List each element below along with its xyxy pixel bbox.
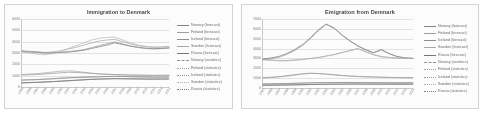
x-axis-tick-label: 1995 <box>18 87 25 95</box>
legend-line-swatch <box>177 25 189 26</box>
legend-item[interactable]: Sweden (forecast) <box>177 44 222 50</box>
legend-item[interactable]: Russia (forecast) <box>424 52 469 58</box>
x-axis-tick-label: 1997 <box>275 88 282 96</box>
x-axis-tick-label: 1995 <box>259 88 266 96</box>
legend-item[interactable]: Iceland (statistics) <box>177 72 222 78</box>
legend-item[interactable]: Finland (statistics) <box>424 67 469 73</box>
legend-item[interactable]: Iceland (statistics) <box>424 74 469 80</box>
legend-label: Iceland (forecast) <box>438 38 467 43</box>
legend-item[interactable]: Sweden (forecast) <box>424 45 469 51</box>
legend-line-swatch <box>424 84 436 85</box>
x-axis-tick-label: 2001 <box>64 87 71 95</box>
y-axis-tick-label: 4000 <box>253 47 261 51</box>
legend-line-swatch <box>424 33 436 34</box>
x-axis-tick-label: 2005 <box>338 88 345 96</box>
x-axis-tick-label: 2006 <box>103 87 110 95</box>
legend-label: Russia (forecast) <box>191 51 219 56</box>
legend-label: Norway (forecast) <box>191 23 220 28</box>
legend-line-swatch <box>177 53 189 54</box>
x-axis-tick-label: 2000 <box>298 88 305 96</box>
y-axis-tick-label: 1000 <box>253 76 261 80</box>
chart-panel-emigration: Emigration from Denmark 7000600050004000… <box>241 4 479 109</box>
y-axis-tick-label: 4000 <box>12 40 20 44</box>
legend-item[interactable]: Russia (forecast) <box>177 51 222 57</box>
legend-line-swatch <box>177 75 189 76</box>
y-axis-tick-label: 1000 <box>12 74 20 78</box>
legend-label: Russia (forecast) <box>438 53 466 58</box>
x-axis-tick-label: 2001 <box>306 88 313 96</box>
legend-label: Russia (statistics) <box>191 87 220 92</box>
x-axis-tick-label: 2003 <box>80 87 87 95</box>
x-axis-tick-label: 2004 <box>330 88 337 96</box>
x-axis-tick-label: 2009 <box>126 87 133 95</box>
legend-label: Norway (statistics) <box>191 58 221 63</box>
x-axis-tick-label: 2011 <box>142 87 149 95</box>
legend-label: Finland (forecast) <box>438 31 467 36</box>
legend-line-swatch <box>424 77 436 78</box>
legend-line-swatch <box>424 47 436 48</box>
legend-line-swatch <box>424 26 436 27</box>
x-axis-tick-label: 1999 <box>291 88 298 96</box>
legend-item[interactable]: Finland (forecast) <box>177 29 222 35</box>
x-axis-tick-label: 2008 <box>119 87 126 95</box>
plot-frame: 6000500040003000200010000199519961997199… <box>21 19 169 88</box>
legend-item[interactable]: Norway (forecast) <box>177 22 222 28</box>
legend-item[interactable]: Finland (forecast) <box>424 30 469 36</box>
x-axis-tick-label: 2008 <box>362 88 369 96</box>
legend-item[interactable]: Iceland (forecast) <box>177 36 222 42</box>
x-axis-tick-label: 2014 <box>409 88 416 96</box>
x-axis-tick-label: 1997 <box>33 87 40 95</box>
x-axis-tick-label: 2013 <box>401 88 408 96</box>
legend-item[interactable]: Iceland (forecast) <box>424 38 469 44</box>
x-axis-tick-label: 2012 <box>393 88 400 96</box>
series-line <box>22 43 169 53</box>
charts-page: Immigration to Denmark 60005000400030002… <box>0 0 489 115</box>
x-axis-tick-label: 2013 <box>157 87 164 95</box>
series-layer <box>263 19 413 88</box>
legend-item[interactable]: Norway (statistics) <box>177 58 222 64</box>
legend-label: Iceland (forecast) <box>191 37 220 42</box>
legend-label: Norway (statistics) <box>438 60 468 65</box>
legend-label: Russia (statistics) <box>438 89 467 94</box>
legend-line-swatch <box>177 68 189 69</box>
x-axis-tick-label: 2010 <box>134 87 141 95</box>
x-axis-tick-label: 2007 <box>111 87 118 95</box>
x-axis-tick-label: 1999 <box>49 87 56 95</box>
y-axis-tick-label: 6000 <box>253 27 261 31</box>
y-axis-tick-label: 6000 <box>12 17 20 21</box>
legend-item[interactable]: Finland (statistics) <box>177 65 222 71</box>
legend-label: Sweden (statistics) <box>438 82 469 87</box>
legend-label: Finland (forecast) <box>191 30 220 35</box>
legend-line-swatch <box>424 62 436 63</box>
x-axis-tick-label: 2012 <box>150 87 157 95</box>
legend-line-swatch <box>424 40 436 41</box>
legend-line-swatch <box>177 89 189 90</box>
x-axis-tick-label: 2010 <box>377 88 384 96</box>
legend-item[interactable]: Sweden (statistics) <box>177 80 222 86</box>
legend-item[interactable]: Norway (forecast) <box>424 23 469 29</box>
legend-item[interactable]: Russia (statistics) <box>177 87 222 93</box>
legend-item[interactable]: Russia (statistics) <box>424 89 469 95</box>
legend-label: Sweden (statistics) <box>191 80 222 85</box>
legend-line-swatch <box>424 69 436 70</box>
legend-item[interactable]: Norway (statistics) <box>424 59 469 65</box>
y-axis-tick-label: 7000 <box>253 17 261 21</box>
y-axis-tick-label: 3000 <box>12 51 20 55</box>
legend-label: Finland (statistics) <box>438 67 468 72</box>
y-axis-tick-label: 2000 <box>12 62 20 66</box>
plot-area-immigration: 6000500040003000200010000199519961997199… <box>21 19 169 88</box>
chart-title-immigration: Immigration to Denmark <box>5 9 232 16</box>
legend-label: Sweden (forecast) <box>191 44 221 49</box>
series-line <box>22 39 169 52</box>
plot-frame: 7000600050004000300020001000019951996199… <box>262 19 413 89</box>
legend-label: Sweden (forecast) <box>438 45 468 50</box>
x-axis-tick-label: 2004 <box>88 87 95 95</box>
x-axis-tick-label: 2009 <box>370 88 377 96</box>
legend-line-swatch <box>177 82 189 83</box>
legend-label: Norway (forecast) <box>438 24 467 29</box>
legend-item[interactable]: Sweden (statistics) <box>424 81 469 87</box>
y-axis-tick-label: 3000 <box>253 56 261 60</box>
x-axis-tick-label: 2003 <box>322 88 329 96</box>
legend-line-swatch <box>177 60 189 61</box>
x-axis-tick-label: 1998 <box>283 88 290 96</box>
